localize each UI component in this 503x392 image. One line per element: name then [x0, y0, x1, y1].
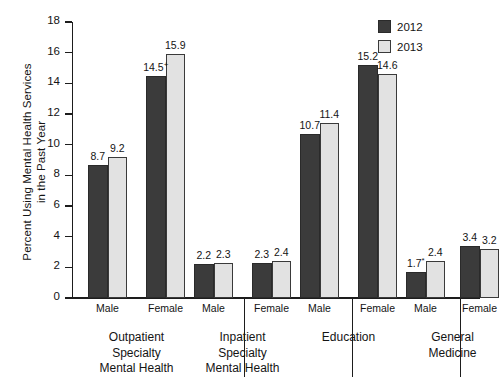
legend-label-2013: 2013	[397, 41, 423, 53]
y-tick	[65, 21, 72, 22]
group-label: Outpatient Specialty Mental Health	[77, 330, 197, 377]
group-label: General Medicine	[393, 330, 503, 361]
bar-value-label: 2.4	[418, 246, 454, 258]
bar-value-label: 3.2	[472, 234, 503, 246]
legend-swatch-2012	[378, 20, 391, 33]
bar-2013[interactable]	[166, 54, 186, 298]
group-label: Inpatient Specialty Mental Health	[183, 330, 303, 377]
bar-value-label: 14.5+	[138, 61, 174, 73]
y-tick-label: 0	[36, 290, 60, 302]
bar-2013[interactable]	[378, 74, 398, 298]
y-tick	[65, 267, 72, 268]
bar-value-label: 2.4	[264, 246, 300, 258]
y-tick-label: 10	[36, 137, 60, 149]
y-tick	[65, 113, 72, 114]
bar-value-label: 11.4	[312, 108, 348, 120]
y-tick	[65, 236, 72, 237]
bar-2012[interactable]	[358, 65, 378, 298]
bar-2013[interactable]	[272, 261, 292, 298]
bar-2012[interactable]	[406, 272, 426, 298]
y-tick-label: 6	[36, 198, 60, 210]
bar-2012[interactable]	[252, 263, 272, 298]
bar-2013[interactable]	[214, 263, 234, 298]
y-tick-label: 16	[36, 45, 60, 57]
x-tick-label-female: Female	[450, 302, 503, 314]
y-tick-label: 8	[36, 167, 60, 179]
bar-2012[interactable]	[88, 165, 108, 298]
x-tick-label-male: Male	[184, 302, 244, 314]
bar-2013[interactable]	[320, 123, 340, 298]
legend-label-2012: 2012	[397, 21, 423, 33]
x-tick-label-male: Male	[78, 302, 138, 314]
y-tick	[65, 175, 72, 176]
y-axis-title: Percent Using Mental Health Services in …	[20, 32, 48, 292]
y-tick-label: 12	[36, 106, 60, 118]
y-tick	[65, 205, 72, 206]
bar-value-label: 9.2	[100, 142, 136, 154]
y-tick	[65, 297, 72, 298]
bar-value-label: 2.3	[206, 248, 242, 260]
x-tick-label-male: Male	[290, 302, 350, 314]
y-tick-label: 4	[36, 229, 60, 241]
x-tick-label-male: Male	[396, 302, 456, 314]
y-tick-label: 14	[36, 75, 60, 87]
y-tick-label: 18	[36, 14, 60, 26]
bar-2013[interactable]	[108, 157, 128, 298]
bar-2012[interactable]	[460, 246, 480, 298]
legend-item-2013[interactable]: 2013	[378, 38, 423, 55]
group-label: Education	[289, 330, 409, 346]
bar-value-label: 15.9	[158, 39, 194, 51]
bar-value-label: 14.6	[370, 59, 406, 71]
bar-2013[interactable]	[480, 249, 500, 298]
y-tick-label: 2	[36, 259, 60, 271]
bar-value-label: 10.7	[292, 119, 328, 131]
bar-2012[interactable]	[146, 76, 166, 298]
legend-item-2012[interactable]: 2012	[378, 18, 423, 35]
bar-value-label: 1.7*	[398, 257, 434, 269]
bar-2012[interactable]	[194, 264, 214, 298]
y-tick	[65, 83, 72, 84]
y-tick	[65, 144, 72, 145]
legend: 2012 2013	[378, 18, 423, 58]
legend-swatch-2013	[378, 40, 391, 53]
y-tick	[65, 52, 72, 53]
bar-2012[interactable]	[300, 134, 320, 298]
